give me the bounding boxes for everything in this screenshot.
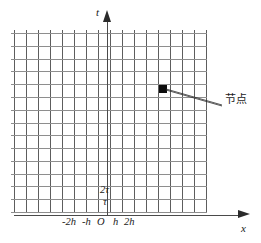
x-axis-label: x (241, 222, 246, 234)
grid-horizontal-line (11, 110, 207, 111)
filled-square-marker (159, 85, 167, 93)
grid-vertical-line (134, 30, 135, 212)
right-arrow-icon (238, 210, 250, 218)
x-tick-label-origin: O (97, 216, 105, 227)
grid-vertical-line (182, 30, 183, 212)
grid-vertical-line (50, 30, 51, 212)
t-axis-label: t (96, 6, 99, 18)
grid-horizontal-line (11, 199, 207, 200)
x-tick-label-neg2h: -2h (62, 216, 76, 227)
node-annotation-label: 节点 (225, 90, 247, 106)
x-tick-label-2h: 2h (124, 216, 135, 227)
up-arrow-icon (103, 10, 111, 22)
grid-horizontal-line (11, 123, 207, 124)
grid-horizontal-line (11, 161, 207, 162)
y-tick-label-2tau: 2τ (100, 184, 109, 195)
grid-vertical-line (122, 30, 123, 212)
grid-horizontal-line (11, 59, 207, 60)
grid-vertical-line (158, 30, 159, 212)
coordinate-grid (14, 33, 206, 212)
grid-vertical-line (194, 30, 195, 212)
grid-vertical-line (38, 30, 39, 212)
grid-horizontal-line (11, 33, 207, 34)
grid-horizontal-line (11, 97, 207, 98)
y-tick-label-tau: τ (103, 196, 107, 207)
grid-vertical-line (170, 30, 171, 212)
mesh-grid-figure: t x -2h -h O h 2h 2τ τ 节点 (0, 0, 261, 243)
grid-horizontal-line (11, 71, 207, 72)
grid-horizontal-line (11, 84, 207, 85)
x-tick-label-h: h (113, 216, 118, 227)
grid-horizontal-line (11, 46, 207, 47)
grid-vertical-line (74, 30, 75, 212)
grid-vertical-line (26, 30, 27, 212)
grid-horizontal-line (11, 148, 207, 149)
x-tick-label-negh: -h (82, 216, 91, 227)
grid-horizontal-line (11, 174, 207, 175)
grid-horizontal-line (11, 135, 207, 136)
grid-horizontal-line (11, 212, 207, 213)
grid-vertical-line (62, 30, 63, 212)
grid-vertical-line (206, 30, 207, 212)
grid-vertical-line (86, 30, 87, 212)
grid-vertical-line (98, 30, 99, 212)
grid-vertical-line (146, 30, 147, 212)
grid-vertical-line (14, 30, 15, 212)
grid-vertical-line (110, 30, 111, 212)
